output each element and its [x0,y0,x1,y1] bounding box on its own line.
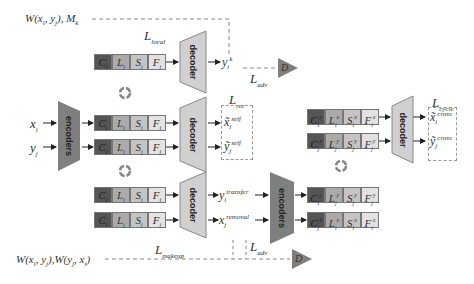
warp-label-top: W(xi, yj), Mk [25,13,78,27]
makeup-network-diagram: encoders encoders decoder decoder decode… [0,0,474,284]
input-y: yj [30,141,38,158]
encoders-right: encoders [270,172,294,244]
decoder-rec: decoder [180,97,206,172]
decoder-cycle: decoder [392,96,413,163]
loss-makeup: Lmakeup [155,243,184,260]
discriminator-bottom: D [295,254,302,264]
loss-local: Llocal [144,29,165,46]
output-x-cross: x̃icross [430,111,452,126]
decoder-makeup: decoder [180,172,206,238]
loss-adv-top: Ladv [250,72,267,89]
discriminator-top: D [281,63,288,73]
decoder-top: decoder [180,31,206,93]
output-x-self: x̃iself [224,116,241,131]
warp-label-bottom: W(xi, yj),W(yj, xi) [16,254,90,268]
output-x-removal: xjremoval [219,214,249,229]
output-yk: yik [222,56,232,71]
encoders-left: encoders [58,101,80,171]
output-y-self: ỹjself [224,140,241,155]
input-x: xi [30,117,38,134]
output-y-cross: ỹjcross [430,135,452,150]
loss-adv-bottom: Ladv [250,240,267,257]
output-y-transfer: yitransfer [219,189,248,204]
